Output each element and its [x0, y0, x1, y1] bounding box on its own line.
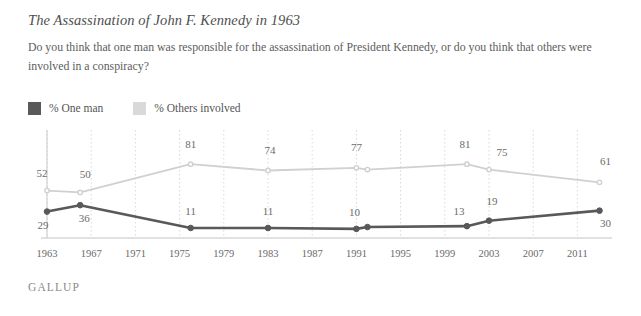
- gallup-chart-page: The Assassination of John F. Kennedy in …: [0, 0, 641, 316]
- point-label: 77: [351, 141, 362, 153]
- data-point[interactable]: [265, 225, 271, 231]
- point-label: 50: [80, 168, 91, 180]
- data-point[interactable]: [487, 167, 491, 171]
- x-tick-1967: 1967: [81, 248, 102, 259]
- data-point[interactable]: [365, 167, 369, 171]
- data-point[interactable]: [354, 226, 360, 232]
- data-point[interactable]: [77, 202, 83, 208]
- x-tick-2011: 2011: [567, 248, 588, 259]
- point-label: 52: [37, 167, 48, 179]
- x-tick-1979: 1979: [213, 248, 234, 259]
- point-label: 11: [263, 205, 274, 217]
- point-label: 36: [79, 212, 90, 224]
- x-tick-1991: 1991: [346, 248, 367, 259]
- data-point[interactable]: [44, 209, 50, 215]
- chart-canvas: [0, 0, 641, 316]
- x-tick-1999: 1999: [434, 248, 455, 259]
- data-point[interactable]: [464, 223, 470, 229]
- data-point[interactable]: [465, 162, 469, 166]
- data-point[interactable]: [486, 218, 492, 224]
- series-line-one-man: [47, 205, 600, 229]
- x-axis-tick-labels: 1963196719711975197919831987199119951999…: [0, 248, 641, 264]
- data-point[interactable]: [354, 166, 358, 170]
- point-label: 10: [349, 206, 360, 218]
- line-chart: 1963196719711975197919831987199119951999…: [0, 0, 641, 316]
- x-tick-1983: 1983: [258, 248, 279, 259]
- point-label: 61: [600, 155, 611, 167]
- point-label: 11: [185, 205, 196, 217]
- x-tick-1963: 1963: [37, 248, 58, 259]
- point-label: 19: [487, 195, 498, 207]
- point-label: 75: [497, 146, 508, 158]
- x-tick-1987: 1987: [302, 248, 323, 259]
- point-label: 30: [600, 217, 611, 229]
- point-label: 13: [453, 205, 464, 217]
- x-tick-2003: 2003: [479, 248, 500, 259]
- gallup-brand: GALLUP: [28, 281, 80, 293]
- data-point[interactable]: [597, 208, 603, 214]
- point-label: 74: [265, 144, 276, 156]
- x-tick-1971: 1971: [125, 248, 146, 259]
- x-tick-1975: 1975: [169, 248, 190, 259]
- point-label: 81: [185, 138, 196, 150]
- data-point[interactable]: [188, 225, 194, 231]
- data-point[interactable]: [597, 180, 601, 184]
- x-tick-2007: 2007: [523, 248, 544, 259]
- data-point[interactable]: [365, 224, 371, 230]
- data-point[interactable]: [188, 162, 192, 166]
- data-point[interactable]: [78, 190, 82, 194]
- data-point[interactable]: [266, 168, 270, 172]
- point-label: 29: [38, 219, 49, 231]
- x-tick-1995: 1995: [390, 248, 411, 259]
- point-label: 81: [459, 138, 470, 150]
- data-point[interactable]: [45, 188, 49, 192]
- series-line-others-involved: [47, 164, 600, 192]
